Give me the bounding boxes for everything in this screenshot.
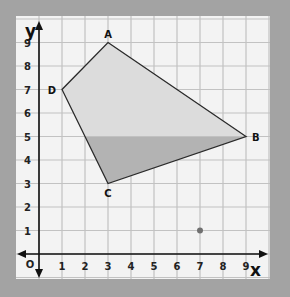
x-axis-label: x: [250, 260, 261, 280]
x-tick-label: 7: [197, 261, 204, 272]
x-axis-arrow-left-icon: [17, 250, 26, 258]
origin-label: O: [26, 259, 35, 270]
y-tick-label: 4: [24, 155, 31, 166]
x-tick-label: 2: [82, 261, 89, 272]
vertex-label-d: D: [48, 85, 56, 96]
y-tick-label: 7: [24, 85, 31, 96]
y-tick-label: 3: [24, 179, 31, 190]
plotted-point: [197, 228, 203, 234]
y-tick-label: 8: [24, 61, 31, 72]
y-axis-arrow-down-icon: [35, 269, 43, 278]
x-tick-label: 9: [243, 261, 250, 272]
y-tick-label: 9: [24, 38, 31, 49]
y-tick-label: 6: [24, 108, 31, 119]
x-tick-label: 8: [220, 261, 227, 272]
plotted-points: [197, 228, 203, 234]
y-tick-label: 5: [24, 132, 31, 143]
x-axis-arrow-right-icon: [259, 250, 268, 258]
vertex-label-c: C: [104, 188, 111, 199]
x-tick-label: 1: [59, 261, 66, 272]
x-tick-label: 4: [128, 261, 135, 272]
coordinate-plot: yxO 123456789123456789 ABCD: [0, 0, 290, 297]
y-axis-arrow-up-icon: [35, 21, 43, 30]
x-tick-label: 6: [174, 261, 181, 272]
vertex-label-a: A: [104, 29, 112, 40]
y-tick-label: 1: [24, 226, 31, 237]
y-tick-label: 2: [24, 202, 31, 213]
vertex-label-b: B: [252, 132, 260, 143]
x-tick-label: 5: [151, 261, 158, 272]
x-tick-label: 3: [105, 261, 112, 272]
